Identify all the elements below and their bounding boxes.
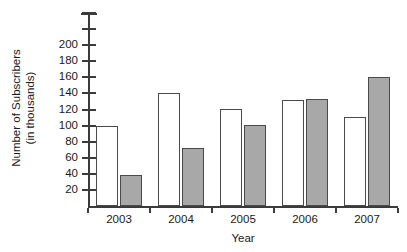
y-axis-tick-label: 40	[44, 168, 78, 179]
y-axis-tick	[82, 157, 96, 159]
x-axis-tick-label-2003: 2003	[89, 213, 149, 225]
bar-2007-series-1	[344, 117, 366, 206]
bar-2003-series-1	[96, 126, 118, 206]
bar-2004-series-1	[158, 93, 180, 206]
y-axis-tick	[82, 109, 96, 111]
y-axis-tick-label: 80	[44, 136, 78, 147]
y-axis-tick-label: 200	[44, 39, 78, 50]
x-axis-tick-label-2004: 2004	[151, 213, 211, 225]
y-axis-tick	[82, 28, 96, 30]
y-axis-tick-label: 120	[44, 104, 78, 115]
y-axis-line	[88, 13, 90, 208]
y-axis-title: Number of Subscribers (in thousands)	[0, 0, 46, 215]
y-axis-tick	[82, 12, 96, 14]
bar-2006-series-2	[306, 99, 328, 206]
y-axis-tick	[82, 76, 96, 78]
y-axis-tick	[82, 125, 96, 127]
y-axis-title-line-2: (in thousands)	[23, 49, 37, 167]
bar-2003-series-2	[120, 175, 142, 206]
y-axis-tick	[82, 60, 96, 62]
y-axis-tick-label: 160	[44, 71, 78, 82]
x-axis-tick-label-2006: 2006	[275, 213, 335, 225]
x-axis-line	[88, 206, 398, 208]
x-axis-title: Year	[88, 232, 398, 244]
y-axis-tick	[82, 92, 96, 94]
y-axis-tick	[82, 141, 96, 143]
x-axis-tick-label-2007: 2007	[337, 213, 397, 225]
y-axis-tick-label: 180	[44, 55, 78, 66]
y-axis-tick	[82, 44, 96, 46]
bar-2004-series-2	[182, 148, 204, 206]
x-axis-tick-label-2005: 2005	[213, 213, 273, 225]
y-axis-tick-label: 140	[44, 87, 78, 98]
x-axis-tick	[397, 208, 399, 213]
y-axis-title-line-1: Number of Subscribers	[9, 49, 23, 167]
y-axis-tick	[82, 189, 96, 191]
bar-chart: Number of Subscribers (in thousands) 200…	[0, 0, 407, 252]
bar-2006-series-1	[282, 100, 304, 206]
bar-2005-series-2	[244, 125, 266, 206]
bar-2007-series-2	[368, 77, 390, 206]
y-axis-tick-label: 60	[44, 152, 78, 163]
y-axis-tick-label: 100	[44, 120, 78, 131]
y-axis-tick	[82, 173, 96, 175]
bar-2005-series-1	[220, 109, 242, 206]
y-axis-tick-label: 20	[44, 184, 78, 195]
